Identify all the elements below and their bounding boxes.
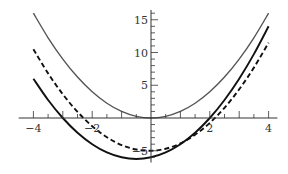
y-tick-label: 10 bbox=[134, 47, 148, 60]
chart: −4−224−551015 bbox=[0, 0, 288, 174]
x-tick-label: 4 bbox=[265, 122, 272, 135]
y-tick-label: −5 bbox=[132, 145, 148, 158]
x-tick-label: −2 bbox=[84, 122, 100, 135]
x-tick-label: 2 bbox=[206, 122, 213, 135]
x-tick-label: −4 bbox=[25, 122, 41, 135]
y-tick-label: 15 bbox=[134, 14, 148, 27]
y-tick-label: 5 bbox=[141, 79, 148, 92]
